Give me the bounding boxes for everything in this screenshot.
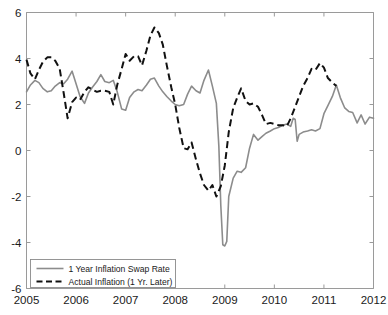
series-line-actual-inflation xyxy=(27,27,337,196)
x-tick-label: 2005 xyxy=(14,294,40,306)
x-axis-tick-labels: 20052006200720082009201020112012 xyxy=(14,294,387,306)
legend-label-swap-rate: 1 Year Inflation Swap Rate xyxy=(69,264,171,274)
y-axis-tick-labels: 6420-2-4-6 xyxy=(11,7,22,295)
x-tick-label: 2011 xyxy=(312,294,337,306)
series-line-inflation-swap-rate xyxy=(27,70,374,246)
y-tick-label: 6 xyxy=(15,7,21,19)
y-tick-label: 2 xyxy=(15,99,21,111)
x-tick-label: 2010 xyxy=(262,294,288,306)
chart-legend: 1 Year Inflation Swap Rate Actual Inflat… xyxy=(31,260,176,288)
data-series-group xyxy=(27,27,374,246)
y-tick-label: 4 xyxy=(15,53,22,65)
x-tick-label: 2008 xyxy=(162,294,188,306)
x-axis-ticks xyxy=(27,13,374,289)
axis-frame xyxy=(27,13,374,289)
legend-label-actual-inflation: Actual Inflation (1 Yr. Later) xyxy=(69,277,173,287)
x-tick-label: 2007 xyxy=(113,294,139,306)
inflation-swap-chart: 6420-2-4-6 20052006200720082009201020112… xyxy=(0,0,388,315)
y-tick-label: -2 xyxy=(11,191,21,203)
y-tick-label: -4 xyxy=(11,237,22,249)
y-tick-label: 0 xyxy=(15,145,21,157)
plot-frame xyxy=(27,13,374,289)
x-tick-label: 2006 xyxy=(63,294,89,306)
x-tick-label: 2012 xyxy=(361,294,387,306)
y-axis-ticks xyxy=(27,13,374,289)
chart-canvas: 6420-2-4-6 20052006200720082009201020112… xyxy=(0,0,388,315)
x-tick-label: 2009 xyxy=(212,294,238,306)
